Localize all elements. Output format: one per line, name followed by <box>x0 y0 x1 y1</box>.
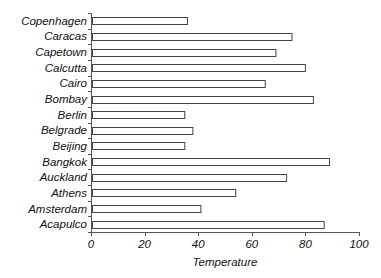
category-label: Cairo <box>60 77 87 89</box>
category-label: Copenhagen <box>21 15 87 27</box>
bar-acapulco <box>93 222 325 229</box>
category-label: Beijing <box>52 140 87 152</box>
x-tick-label: 40 <box>192 238 205 250</box>
bar-calcutta <box>93 65 306 72</box>
bar-capetown <box>93 50 276 57</box>
category-label: Amsterdam <box>28 203 87 215</box>
bar-copenhagen <box>93 18 188 25</box>
x-tick-label: 80 <box>299 238 312 250</box>
category-label: Auckland <box>40 171 87 183</box>
bar-bombay <box>93 97 314 104</box>
bar-athens <box>93 190 236 197</box>
bar-auckland <box>93 175 287 182</box>
category-label: Capetown <box>35 46 87 58</box>
bar-amsterdam <box>93 206 201 213</box>
category-label: Calcutta <box>45 62 87 74</box>
bar-berlin <box>93 112 185 119</box>
bar-chart: Copenhagen Caracas Capetown Calcutta Cai… <box>0 0 381 278</box>
bar-beijing <box>93 143 185 150</box>
category-label: Berlin <box>58 109 87 121</box>
x-tick-label: 20 <box>138 238 151 250</box>
category-label: Caracas <box>44 30 87 42</box>
category-label: Bombay <box>45 93 87 105</box>
x-tick-label: 0 <box>88 238 94 250</box>
bar-belgrade <box>93 128 193 135</box>
x-tick-label: 60 <box>245 238 258 250</box>
bar-caracas <box>93 34 293 41</box>
bar-bangkok <box>93 159 330 166</box>
x-axis-title: Temperature <box>193 256 258 268</box>
category-label: Bangkok <box>42 156 87 168</box>
bar-cairo <box>93 81 266 88</box>
category-label: Belgrade <box>41 124 87 136</box>
x-tick-label: 100 <box>349 238 368 250</box>
category-label: Acapulco <box>40 218 87 230</box>
category-label: Athens <box>51 187 87 199</box>
